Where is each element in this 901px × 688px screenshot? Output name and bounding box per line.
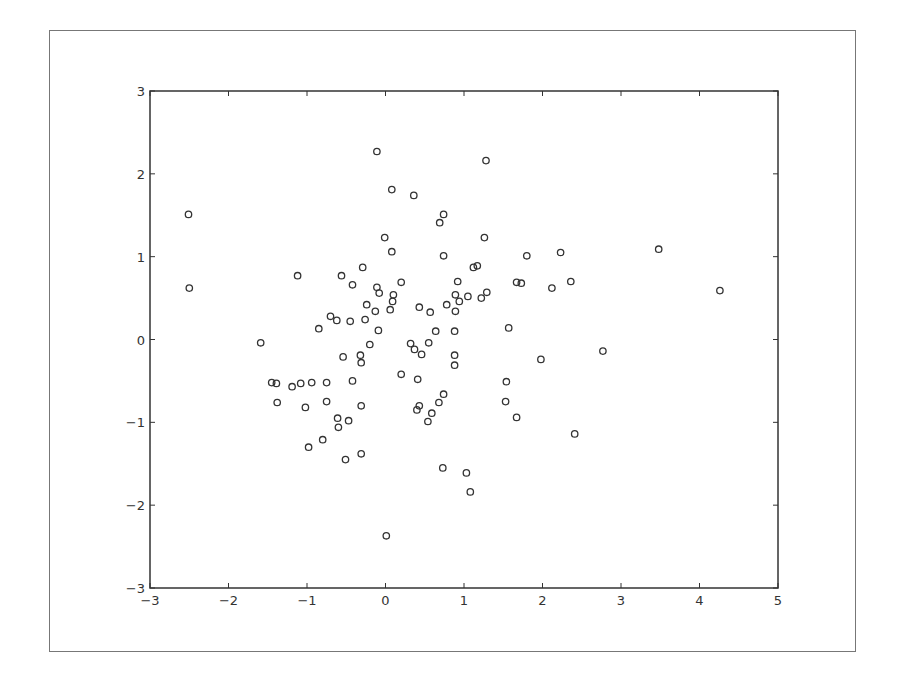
y-tick-label: −1 — [126, 415, 145, 430]
data-point — [478, 295, 484, 301]
data-point — [305, 444, 311, 450]
data-point — [320, 437, 326, 443]
data-point — [258, 340, 264, 346]
data-point — [358, 451, 364, 457]
data-point — [451, 362, 457, 368]
data-point — [345, 418, 351, 424]
data-point — [440, 465, 446, 471]
data-point — [568, 278, 574, 284]
data-point — [418, 351, 424, 357]
data-point — [376, 290, 382, 296]
data-point — [372, 308, 378, 314]
data-point — [383, 533, 389, 539]
data-point — [600, 348, 606, 354]
data-point — [407, 340, 413, 346]
data-point — [374, 148, 380, 154]
y-tick-label: 3 — [137, 84, 145, 99]
data-point — [440, 391, 446, 397]
data-point — [338, 273, 344, 279]
data-point — [274, 399, 280, 405]
data-point — [360, 264, 366, 270]
x-tick-label: 3 — [617, 593, 625, 608]
y-tick-label: −3 — [126, 581, 145, 596]
x-tick-label: 2 — [538, 593, 546, 608]
data-point — [382, 234, 388, 240]
data-point — [538, 356, 544, 362]
data-point — [364, 302, 370, 308]
data-point — [572, 431, 578, 437]
data-point — [316, 326, 322, 332]
data-point — [298, 380, 304, 386]
y-tick-label: −2 — [126, 498, 145, 513]
data-point — [436, 399, 442, 405]
data-point — [347, 318, 353, 324]
data-point — [426, 340, 432, 346]
data-point — [411, 346, 417, 352]
data-point — [483, 157, 489, 163]
data-point — [398, 279, 404, 285]
data-point — [289, 384, 295, 390]
data-point — [656, 246, 662, 252]
data-point — [463, 470, 469, 476]
data-point — [302, 404, 308, 410]
data-point — [427, 309, 433, 315]
data-point — [484, 289, 490, 295]
x-tick-label: 5 — [774, 593, 782, 608]
y-axis-tick-labels: −3−2−10123 — [126, 84, 145, 596]
data-point — [451, 328, 457, 334]
data-point — [411, 192, 417, 198]
data-point — [440, 211, 446, 217]
data-point — [334, 415, 340, 421]
data-point — [481, 234, 487, 240]
data-point — [717, 287, 723, 293]
x-tick-label: 1 — [460, 593, 468, 608]
data-point — [334, 317, 340, 323]
data-point — [186, 285, 192, 291]
data-point — [524, 253, 530, 259]
data-point — [455, 278, 461, 284]
data-point — [387, 307, 393, 313]
data-point — [513, 414, 519, 420]
x-tick-label: 0 — [381, 593, 389, 608]
data-point — [433, 328, 439, 334]
data-point — [375, 327, 381, 333]
data-points — [185, 148, 723, 539]
data-point — [389, 298, 395, 304]
data-point — [506, 325, 512, 331]
data-point — [357, 352, 363, 358]
data-point — [416, 304, 422, 310]
y-tick-label: 0 — [137, 333, 145, 348]
data-point — [467, 489, 473, 495]
data-point — [425, 418, 431, 424]
data-point — [503, 379, 509, 385]
data-point — [398, 371, 404, 377]
data-point — [358, 403, 364, 409]
data-point — [437, 220, 443, 226]
axes-box — [150, 91, 778, 588]
data-point — [389, 186, 395, 192]
data-point — [362, 316, 368, 322]
data-point — [470, 264, 476, 270]
data-point — [390, 292, 396, 298]
data-point — [389, 249, 395, 255]
data-point — [327, 313, 333, 319]
data-point — [335, 424, 341, 430]
data-point — [456, 298, 462, 304]
data-point — [323, 398, 329, 404]
data-point — [440, 253, 446, 259]
data-point — [415, 376, 421, 382]
data-point — [294, 273, 300, 279]
data-point — [557, 249, 563, 255]
data-point — [452, 308, 458, 314]
x-axis-tick-labels: −3−2−1012345 — [140, 593, 782, 608]
data-point — [444, 302, 450, 308]
scatter-plot: −3−2−1012345 −3−2−10123 — [0, 0, 901, 688]
data-point — [309, 379, 315, 385]
data-point — [451, 352, 457, 358]
data-point — [349, 378, 355, 384]
data-point — [349, 282, 355, 288]
data-point — [465, 293, 471, 299]
data-point — [452, 292, 458, 298]
data-point — [429, 410, 435, 416]
data-point — [502, 398, 508, 404]
